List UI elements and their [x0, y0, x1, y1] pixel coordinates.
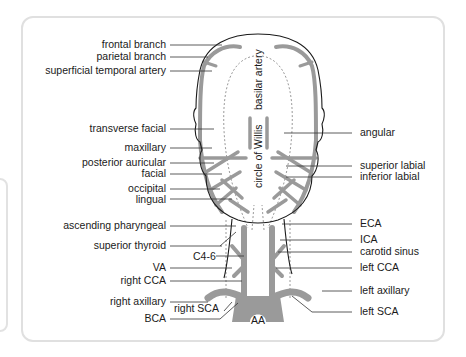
label-lingual: lingual — [136, 193, 166, 205]
label-right-axillary: right axillary — [110, 295, 167, 307]
label-superficial-temporal-artery: superficial temporal artery — [45, 64, 167, 76]
label-carotid-sinus: carotid sinus — [360, 245, 419, 257]
label-eca: ECA — [360, 217, 382, 229]
label-transverse-facial: transverse facial — [90, 122, 166, 134]
label-va: VA — [153, 261, 166, 273]
label-right-sca: right SCA — [174, 302, 219, 314]
head-neck-arteries-diagram: frontal branch parietal branch superfici… — [0, 0, 466, 357]
label-right-cca: right CCA — [120, 274, 166, 286]
left-labels: frontal branch parietal branch superfici… — [45, 38, 167, 324]
label-ica: ICA — [360, 233, 378, 245]
right-labels: angular superior labial inferior labial … — [360, 126, 425, 317]
label-angular: angular — [360, 126, 396, 138]
label-inferior-labial: inferior labial — [360, 170, 420, 182]
label-parietal-branch: parietal branch — [97, 50, 167, 62]
label-basilar-artery: basilar artery — [252, 49, 264, 110]
label-left-axillary: left axillary — [360, 284, 410, 296]
label-aa: AA — [251, 314, 265, 326]
label-bca: BCA — [144, 312, 166, 324]
label-left-cca: left CCA — [360, 261, 399, 273]
label-left-sca: left SCA — [360, 305, 399, 317]
label-ascending-pharyngeal: ascending pharyngeal — [63, 219, 166, 231]
label-frontal-branch: frontal branch — [102, 38, 166, 50]
label-facial: facial — [141, 167, 166, 179]
label-maxillary: maxillary — [125, 141, 167, 153]
label-superior-thyroid: superior thyroid — [94, 239, 167, 251]
label-c4-6: C4-6 — [193, 250, 216, 262]
neck-outline — [224, 219, 232, 278]
label-circle-of-willis: circle of Willis — [252, 124, 264, 188]
